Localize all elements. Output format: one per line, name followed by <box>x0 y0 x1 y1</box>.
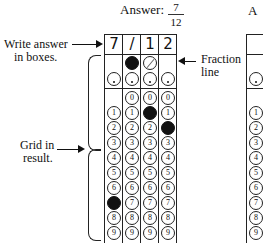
decimal-bubble[interactable] <box>161 72 175 86</box>
digit-bubble[interactable]: 6 <box>143 181 157 195</box>
answer-text: Answer: <box>120 2 164 17</box>
digit-bubble-filled[interactable]: 1 <box>143 106 157 120</box>
decimal-bubble[interactable] <box>249 72 263 86</box>
digit-bubble[interactable]: 0 <box>125 91 139 105</box>
digit-bubble[interactable]: 8 <box>107 211 121 225</box>
dot-icon <box>131 81 133 83</box>
digit-bubble[interactable]: 8 <box>249 211 263 225</box>
brace-bottom-icon <box>88 149 101 241</box>
fraction-arrow-line <box>184 61 196 62</box>
dot-icon <box>167 81 169 83</box>
slash-bubble[interactable] <box>143 56 157 70</box>
digit-bubble[interactable]: 8 <box>161 211 175 225</box>
digit-bubble-filled[interactable]: 2 <box>161 121 175 135</box>
write-answer-line2: in boxes. <box>4 51 68 64</box>
write-answer-label: Write answer in boxes. <box>4 38 68 64</box>
fraction-denominator: 12 <box>171 16 182 28</box>
right-answer-label: A <box>248 3 257 19</box>
answer-grid: 7 / 1 2 12345678901234567890123456789012… <box>104 34 177 243</box>
brace-top-icon <box>88 55 101 151</box>
digit-bubble[interactable]: 3 <box>161 136 175 150</box>
digit-bubble[interactable]: 5 <box>143 166 157 180</box>
answer-label: Answer: <box>120 2 164 18</box>
digit-bubble[interactable]: 9 <box>107 226 121 240</box>
column-divider <box>140 35 141 243</box>
answer-box-3[interactable]: 1 <box>141 36 159 53</box>
digit-bubble[interactable]: 3 <box>249 136 263 150</box>
digit-bubble[interactable]: 1 <box>125 106 139 120</box>
digit-bubble[interactable]: 9 <box>249 226 263 240</box>
write-answer-arrow-line <box>72 44 97 45</box>
digit-bubble[interactable]: 6 <box>249 181 263 195</box>
column-divider <box>158 35 159 243</box>
digit-bubble[interactable]: 5 <box>125 166 139 180</box>
digit-bubble[interactable]: 2 <box>249 121 263 135</box>
digit-bubble[interactable]: 8 <box>125 211 139 225</box>
digit-bubble[interactable]: 3 <box>107 136 121 150</box>
dot-icon <box>113 81 115 83</box>
grid-in-label: Grid in result. <box>20 139 54 165</box>
grid-in-arrow-line <box>57 149 79 150</box>
fraction-line-line2: line <box>201 66 241 79</box>
digit-bubble-filled[interactable]: 7 <box>107 196 121 210</box>
row-divider <box>247 88 263 89</box>
decimal-bubble[interactable] <box>125 72 139 86</box>
digit-bubble[interactable]: 0 <box>143 91 157 105</box>
digit-bubble[interactable]: 7 <box>161 196 175 210</box>
digit-bubble[interactable]: 1 <box>161 106 175 120</box>
digit-bubble[interactable]: 2 <box>107 121 121 135</box>
digit-bubble[interactable]: 1 <box>249 106 263 120</box>
fraction-numerator: 7 <box>173 1 179 13</box>
dot-icon <box>255 81 257 83</box>
digit-bubble[interactable]: 3 <box>143 136 157 150</box>
digit-bubble[interactable]: 7 <box>249 196 263 210</box>
row-divider <box>247 54 263 55</box>
digit-bubble[interactable]: 1 <box>107 106 121 120</box>
arrow-right-icon <box>78 145 85 153</box>
decimal-bubble[interactable] <box>107 72 121 86</box>
fraction-bar <box>168 14 184 15</box>
digit-bubble[interactable]: 2 <box>143 121 157 135</box>
fraction-line-label: Fraction line <box>201 53 241 79</box>
digit-bubble[interactable]: 7 <box>143 196 157 210</box>
digit-bubble[interactable]: 4 <box>249 151 263 165</box>
digit-bubble[interactable]: 5 <box>107 166 121 180</box>
digit-bubble[interactable]: 7 <box>125 196 139 210</box>
digit-bubble[interactable]: 4 <box>125 151 139 165</box>
digit-bubble[interactable]: 4 <box>107 151 121 165</box>
digit-bubble[interactable]: 3 <box>125 136 139 150</box>
digit-bubble[interactable]: 6 <box>107 181 121 195</box>
digit-bubble[interactable]: 2 <box>125 121 139 135</box>
digit-bubble[interactable]: 5 <box>249 166 263 180</box>
decimal-bubble[interactable] <box>143 72 157 86</box>
grid-in-line2: result. <box>20 152 54 165</box>
digit-bubble[interactable]: 9 <box>161 226 175 240</box>
digit-bubble[interactable]: 6 <box>161 181 175 195</box>
dot-icon <box>149 81 151 83</box>
arrow-right-icon <box>96 40 103 48</box>
answer-box-4[interactable]: 2 <box>159 36 177 53</box>
answer-box-1[interactable]: 7 <box>105 36 123 53</box>
digit-bubble[interactable]: 9 <box>125 226 139 240</box>
answer-box-2[interactable]: / <box>123 36 141 53</box>
answer-fraction: 7 12 <box>168 1 184 28</box>
row-divider <box>105 88 176 89</box>
row-divider <box>105 54 176 55</box>
digit-bubble[interactable]: 9 <box>143 226 157 240</box>
column-divider <box>122 35 123 243</box>
digit-bubble[interactable]: 5 <box>161 166 175 180</box>
digit-bubble[interactable]: 8 <box>143 211 157 225</box>
digit-bubble[interactable]: 0 <box>161 91 175 105</box>
digit-bubble[interactable]: 4 <box>143 151 157 165</box>
slash-bubble-filled[interactable] <box>125 56 139 70</box>
slash-icon <box>147 59 155 68</box>
digit-bubble[interactable]: 6 <box>125 181 139 195</box>
digit-bubble[interactable]: 4 <box>161 151 175 165</box>
right-answer-grid: 123456789 <box>246 34 263 243</box>
